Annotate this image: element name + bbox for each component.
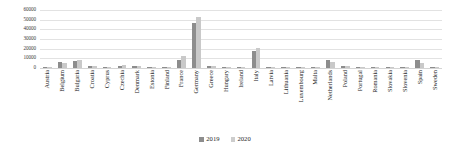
- bar-2020: [375, 67, 379, 68]
- bar-group: [174, 10, 189, 68]
- bar-2020: [256, 48, 260, 68]
- x-axis-tick-label: Netherlands: [327, 70, 333, 100]
- plot-area: [40, 10, 442, 68]
- x-axis-tick: Italy: [248, 70, 263, 128]
- bar-group: [397, 10, 412, 68]
- bar-2020: [181, 56, 185, 68]
- y-axis-tick-label: 30000: [24, 36, 36, 41]
- y-axis-tick-label: 0: [34, 65, 37, 70]
- x-axis-tick-label: Croatia: [89, 70, 95, 89]
- x-axis-tick: France: [174, 70, 189, 128]
- x-axis-labels: AustriaBelgiumBulgariaCroatiaCyprusCzech…: [40, 70, 442, 128]
- bar-group: [278, 10, 293, 68]
- x-axis-tick: Portugal: [353, 70, 368, 128]
- x-axis-tick-label: Greece: [208, 70, 214, 88]
- bar-group: [40, 10, 55, 68]
- bar-group: [129, 10, 144, 68]
- bar-2020: [360, 67, 364, 68]
- bar-2020: [330, 62, 334, 68]
- bar-group: [100, 10, 115, 68]
- x-axis-tick: Slovakia: [382, 70, 397, 128]
- bar-group: [308, 10, 323, 68]
- legend-label: 2020: [238, 136, 251, 143]
- bar-2020: [167, 67, 171, 68]
- bar-group: [382, 10, 397, 68]
- bar-group: [189, 10, 204, 68]
- x-axis-tick-label: Malta: [312, 70, 318, 85]
- x-axis-tick: Germany: [189, 70, 204, 128]
- x-axis-tick: Croatia: [85, 70, 100, 128]
- x-axis-tick: Belgium: [55, 70, 70, 128]
- x-axis-tick-label: Belgium: [59, 70, 65, 92]
- bar-2020: [241, 67, 245, 68]
- y-axis-tick-label: 10000: [24, 56, 36, 61]
- bar-group: [85, 10, 100, 68]
- bar-2020: [137, 66, 141, 68]
- bar-2020: [315, 67, 319, 68]
- bar-2020: [152, 67, 156, 68]
- legend-item[interactable]: 2019: [199, 136, 219, 143]
- bar-2020: [77, 60, 81, 68]
- bar-2020: [211, 66, 215, 68]
- x-axis-tick: Denmark: [129, 70, 144, 128]
- y-axis-tick-label: 50000: [24, 17, 36, 22]
- x-axis-tick-label: Luxembourg: [297, 70, 303, 102]
- bar-group: [412, 10, 427, 68]
- bar-2020: [271, 67, 275, 68]
- x-axis-tick: Estonia: [144, 70, 159, 128]
- bar-group: [323, 10, 338, 68]
- bar-chart: 6000050000400003000020000100000 AustriaB…: [0, 0, 450, 159]
- x-axis-tick: Czechia: [114, 70, 129, 128]
- x-axis-tick-label: Denmark: [134, 70, 140, 93]
- x-axis-tick-label: Sweden: [431, 70, 437, 90]
- x-axis-tick-label: Czechia: [119, 70, 125, 90]
- x-axis-tick-label: Bulgaria: [74, 70, 80, 92]
- bar-2020: [62, 63, 66, 68]
- x-axis-tick-label: France: [178, 70, 184, 87]
- bar-group: [338, 10, 353, 68]
- x-axis-tick: Latvia: [263, 70, 278, 128]
- bar-group: [293, 10, 308, 68]
- bar-2020: [301, 67, 305, 68]
- x-axis-tick: Austria: [40, 70, 55, 128]
- x-axis-tick: Luxembourg: [293, 70, 308, 128]
- x-axis-tick: Ireland: [234, 70, 249, 128]
- x-axis-tick: Finland: [159, 70, 174, 128]
- chart-legend: 20192020: [0, 136, 450, 143]
- x-axis-tick-label: Cyprus: [104, 70, 110, 88]
- bar-2020: [420, 63, 424, 68]
- x-axis-tick-label: Poland: [342, 70, 348, 88]
- y-axis-tick-label: 40000: [24, 27, 36, 32]
- bar-2020: [345, 66, 349, 68]
- legend-swatch-icon: [199, 137, 204, 142]
- x-axis-tick: Netherlands: [323, 70, 338, 128]
- x-axis-tick-label: Romania: [372, 70, 378, 93]
- x-axis-tick: Poland: [338, 70, 353, 128]
- legend-label: 2019: [206, 136, 219, 143]
- bar-group: [368, 10, 383, 68]
- bar-2020: [107, 67, 111, 68]
- legend-swatch-icon: [231, 137, 236, 142]
- bar-group: [70, 10, 85, 68]
- bar-2020: [92, 66, 96, 68]
- bar-group: [114, 10, 129, 68]
- bar-2020: [122, 65, 126, 68]
- x-axis-tick-label: Hungary: [223, 70, 229, 92]
- x-axis-tick: Spain: [412, 70, 427, 128]
- x-axis-tick: Lithuania: [278, 70, 293, 128]
- y-axis-tick-label: 20000: [24, 46, 36, 51]
- x-axis-tick: Slovenia: [397, 70, 412, 128]
- bar-group: [144, 10, 159, 68]
- x-axis-tick-label: Austria: [44, 70, 50, 89]
- x-axis-tick-label: Italy: [253, 70, 259, 82]
- bar-2020: [405, 67, 409, 68]
- legend-item[interactable]: 2020: [231, 136, 251, 143]
- x-axis-tick-label: Slovakia: [387, 70, 393, 92]
- x-axis-tick-label: Germany: [193, 70, 199, 93]
- axis-baseline: [40, 68, 442, 69]
- bar-group: [234, 10, 249, 68]
- bar-2020: [286, 67, 290, 68]
- bar-group: [427, 10, 442, 68]
- x-axis-tick: Cyprus: [100, 70, 115, 128]
- bar-group: [263, 10, 278, 68]
